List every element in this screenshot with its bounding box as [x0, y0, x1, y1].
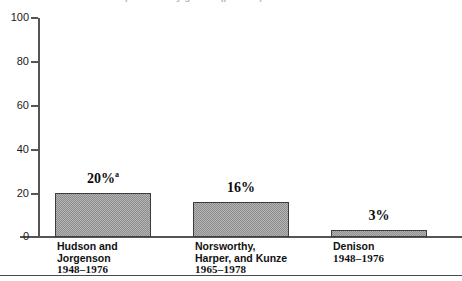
category-line-1-bar1: Hudson and: [57, 241, 118, 253]
bar-value-marker-1: a: [115, 170, 119, 179]
bar-norsworthy-harper-kunze[interactable]: [193, 202, 289, 237]
y-tick-label-60: 60: [0, 100, 29, 111]
category-label-hudson-jorgenson: Hudson and Jorgenson 1948–1976: [57, 241, 118, 276]
bar-denison[interactable]: [331, 230, 427, 237]
y-tick-80: [31, 61, 38, 63]
y-tick-label-0: 0: [0, 231, 29, 242]
y-tick-label-20: 20: [0, 188, 29, 199]
category-years-bar1: 1948–1976: [57, 264, 118, 276]
y-tick-60: [31, 105, 38, 107]
y-tick-label-40: 40: [0, 144, 29, 155]
bar-value-hudson-jorgenson: 20%a: [55, 172, 151, 186]
y-tick-40: [31, 149, 38, 151]
y-tick-label-100: 100: [0, 12, 29, 23]
y-tick-label-80-wrap: 80: [0, 56, 29, 67]
category-line-1-bar2: Norsworthy,: [195, 241, 287, 253]
y-tick-label-40-wrap: 40: [0, 144, 29, 155]
bar-value-denison: 3%: [331, 209, 427, 223]
y-tick-label-80: 80: [0, 56, 29, 67]
category-years-bar2: 1965–1978: [195, 264, 287, 276]
bar-value-text-1: 20%: [87, 171, 115, 186]
category-label-norsworthy-harper-kunze: Norsworthy, Harper, and Kunze 1965–1978: [195, 241, 287, 276]
y-tick-label-0-wrap: 0: [0, 231, 29, 242]
y-tick-20: [31, 193, 38, 195]
y-tick-label-20-wrap: 20: [0, 188, 29, 199]
y-tick-label-100-wrap: 100: [0, 12, 29, 23]
y-axis-line: [38, 18, 40, 238]
category-line-1-bar3: Denison: [333, 241, 384, 253]
category-years-bar3: 1948–1976: [333, 253, 384, 265]
bar-chart: 100 80 60 40 20 0 20%a Hudson and Jorgen…: [0, 0, 462, 281]
y-tick-100: [31, 17, 38, 19]
bar-hudson-jorgenson[interactable]: [55, 193, 151, 237]
category-label-denison: Denison 1948–1976: [333, 241, 384, 264]
y-tick-label-60-wrap: 60: [0, 100, 29, 111]
y-tick-0: [31, 236, 38, 238]
bar-value-norsworthy-harper-kunze: 16%: [193, 181, 289, 195]
bar-value-text-3: 3%: [369, 208, 390, 223]
bar-value-text-2: 16%: [227, 180, 255, 195]
